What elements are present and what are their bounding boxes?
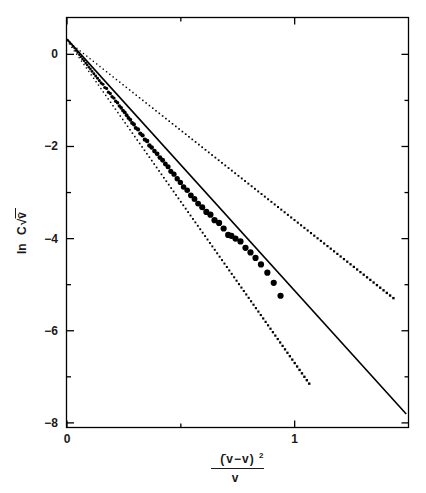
envelope-dot <box>132 132 134 134</box>
envelope-dot <box>231 170 233 172</box>
envelope-dot <box>303 227 305 229</box>
envelope-dot <box>83 53 84 54</box>
envelope-dot <box>88 71 89 72</box>
data-point <box>247 249 253 255</box>
envelope-dot <box>228 269 230 271</box>
envelope-dot <box>162 115 164 117</box>
envelope-dot <box>74 50 75 51</box>
data-point <box>91 70 94 73</box>
envelope-dot <box>346 261 348 263</box>
envelope-dot <box>272 331 274 333</box>
axis-ticks <box>67 18 409 428</box>
envelope-dot <box>194 221 196 223</box>
envelope-dot <box>290 216 292 218</box>
envelope-dot <box>149 105 151 107</box>
envelope-dot <box>159 113 161 115</box>
envelope-dot <box>78 57 79 58</box>
envelope-dot <box>296 365 298 367</box>
envelope-dot <box>211 154 213 156</box>
envelope-dot <box>120 115 122 117</box>
envelope-dot <box>86 67 87 68</box>
envelope-dot <box>180 201 182 203</box>
data-point <box>149 145 154 150</box>
envelope-dot <box>139 97 141 99</box>
envelope-dot <box>91 74 92 75</box>
envelope-dot <box>201 146 203 148</box>
envelope-dot <box>86 55 87 56</box>
data-point <box>207 212 213 218</box>
envelope-dot <box>221 162 223 164</box>
envelope-dot <box>323 242 325 244</box>
envelope-dot <box>379 287 381 289</box>
y-tick-label: 0 <box>51 47 58 61</box>
envelope-dot <box>300 224 302 226</box>
envelope-dot <box>188 136 190 138</box>
envelope-dot <box>165 180 167 182</box>
data-point <box>221 225 227 231</box>
envelope-dot <box>265 321 267 323</box>
data-point <box>112 96 115 99</box>
envelope-dot <box>119 81 120 82</box>
envelope-dot <box>172 123 174 125</box>
data-point <box>72 45 74 47</box>
envelope-dot <box>95 81 96 82</box>
envelope-dot <box>326 245 328 247</box>
envelope-dot <box>103 68 104 69</box>
plot-frame <box>67 18 409 428</box>
envelope-dot <box>100 88 101 89</box>
envelope-dot <box>122 119 124 121</box>
envelope-dot <box>175 126 177 128</box>
envelope-dot <box>284 348 286 350</box>
data-point <box>86 64 89 67</box>
envelope-dot <box>89 58 90 59</box>
y-tick-label: −2 <box>44 139 58 153</box>
envelope-dot <box>141 146 143 148</box>
envelope-dot <box>376 284 378 286</box>
envelope-dot <box>382 289 384 291</box>
envelope-dot <box>173 191 175 193</box>
data-point <box>242 245 248 251</box>
envelope-dot <box>197 225 199 227</box>
envelope-dot <box>192 218 194 220</box>
envelope-dot <box>211 245 213 247</box>
plot-curves <box>66 39 406 414</box>
envelope-dot <box>289 355 291 357</box>
envelope-dot <box>168 120 170 122</box>
data-point <box>94 75 97 78</box>
data-point <box>80 55 83 58</box>
envelope-dot <box>99 66 100 67</box>
envelope-dot <box>366 276 368 278</box>
envelope-dot <box>279 341 281 343</box>
envelope-dot <box>214 249 216 251</box>
envelope-dot <box>389 294 391 296</box>
envelope-dot <box>152 107 154 109</box>
envelope-dot <box>257 190 259 192</box>
envelope-dot <box>161 173 163 175</box>
data-point <box>109 92 112 95</box>
data-point <box>92 72 95 75</box>
envelope-dot <box>134 136 136 138</box>
envelope-dot <box>233 276 235 278</box>
envelope-dot <box>107 98 108 99</box>
data-point <box>83 60 86 63</box>
envelope-dot <box>238 175 240 177</box>
envelope-dot <box>349 263 351 265</box>
data-point <box>140 133 144 137</box>
x-axis-title: (̄v−v) 2 v <box>211 451 264 485</box>
data-point <box>105 87 108 90</box>
envelope-dot <box>369 279 371 281</box>
envelope-dot <box>76 54 77 55</box>
envelope-dot <box>149 156 151 158</box>
envelope-dot <box>145 102 147 104</box>
data-point <box>166 164 171 169</box>
x-tick-label: 1 <box>291 432 298 446</box>
envelope-dot <box>274 203 276 205</box>
envelope-dot <box>236 280 238 282</box>
x-axis-title-minus: − <box>234 452 241 466</box>
envelope-dot <box>170 187 172 189</box>
envelope-dot <box>69 43 70 44</box>
envelope-dot <box>93 61 94 62</box>
envelope-dot <box>202 232 204 234</box>
envelope-dot <box>103 91 104 92</box>
envelope-dot <box>340 255 342 257</box>
